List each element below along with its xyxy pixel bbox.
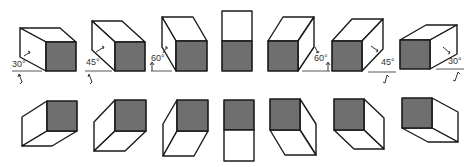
pointer-arrow-icon (88, 74, 92, 84)
cube-top-30-right: 30° (400, 25, 464, 81)
cube-top-45-left: 45° (85, 21, 145, 84)
pointer-arrow-icon (150, 62, 154, 71)
front-face (334, 99, 364, 130)
front-face (270, 99, 300, 130)
front-face (222, 41, 252, 71)
cube-bottom-center (224, 100, 254, 161)
cube-top-60-right: 60° (268, 17, 330, 71)
oblique-projection-diagram: 30° 45° 60° 60° (0, 0, 474, 167)
top-face (222, 11, 252, 41)
pointer-arrow-icon (453, 72, 460, 81)
angle-label: 30° (448, 56, 462, 66)
front-face (402, 98, 432, 128)
angle-label: 60° (151, 53, 165, 63)
cube-bottom-60-left (163, 100, 208, 156)
cube-bottom-45-left (94, 100, 146, 151)
front-face (268, 41, 298, 71)
cube-bottom-45-right (334, 99, 384, 149)
cube-bottom-30-right (402, 98, 458, 142)
cube-top-center (222, 11, 252, 71)
angle-label: 60° (314, 53, 328, 63)
front-face (46, 42, 76, 71)
cube-bottom-30-left (22, 101, 77, 146)
pointer-arrow-icon (383, 75, 389, 83)
front-face (332, 41, 362, 71)
front-face (115, 42, 145, 71)
cube-top-30-left: 30° (12, 28, 76, 84)
cube-top-60-left: 60° (150, 17, 207, 71)
front-face (400, 40, 430, 69)
pointer-arrow-icon (18, 74, 22, 84)
cube-bottom-60-right (270, 99, 316, 155)
angle-label: 45° (86, 57, 100, 67)
angle-label: 30° (12, 59, 26, 69)
front-face (115, 100, 146, 131)
cube-top-45-right: 45° (332, 19, 396, 83)
pointer-arrow-icon (326, 62, 330, 71)
front-face (47, 101, 77, 131)
front-face (176, 41, 207, 71)
front-face (177, 100, 208, 131)
front-face (224, 100, 254, 130)
bottom-face (224, 130, 254, 161)
angle-label: 45° (381, 57, 395, 67)
